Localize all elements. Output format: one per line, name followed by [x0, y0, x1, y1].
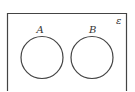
set-b-circle	[71, 37, 113, 79]
universal-set-rectangle	[8, 14, 127, 92]
set-a-label: A	[36, 24, 44, 35]
set-b-label: B	[88, 24, 96, 35]
set-a-circle	[21, 37, 63, 79]
universal-set-label: ε	[116, 15, 121, 26]
venn-diagram: ε A B	[0, 0, 135, 91]
